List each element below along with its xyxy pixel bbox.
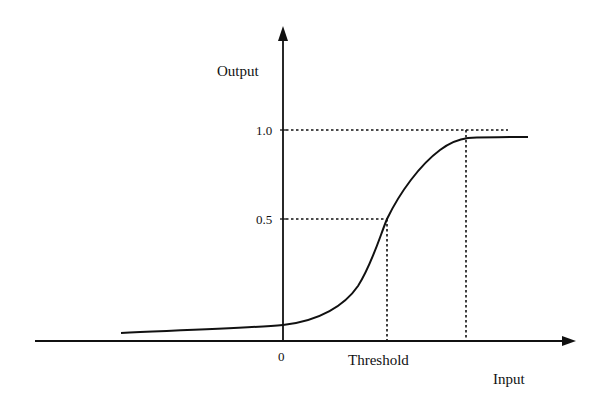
sigmoid-curve xyxy=(121,137,528,333)
y-axis-arrow-icon xyxy=(278,26,288,41)
tick-one-label: 1.0 xyxy=(256,124,272,137)
plot-area xyxy=(0,0,605,406)
sigmoid-diagram: Output 1.0 0.5 0 Threshold Input xyxy=(0,0,605,406)
origin-label: 0 xyxy=(278,350,285,363)
tick-half-label: 0.5 xyxy=(256,213,272,226)
x-axis-arrow-icon xyxy=(562,336,576,346)
y-axis-label: Output xyxy=(217,64,259,79)
x-axis-label: Input xyxy=(493,372,525,387)
threshold-label: Threshold xyxy=(348,353,409,368)
